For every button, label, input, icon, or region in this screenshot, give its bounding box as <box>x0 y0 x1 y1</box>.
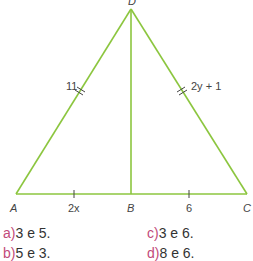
side-dc-label: 2y + 1 <box>191 80 221 92</box>
segment-bc-label: 6 <box>186 202 192 214</box>
side-ad-label: 11 <box>66 80 77 92</box>
vertex-a-label: A <box>9 202 17 214</box>
option-d[interactable]: d)8 e 6. <box>147 245 194 261</box>
vertex-b-label: B <box>127 202 134 214</box>
option-b[interactable]: b)5 e 3. <box>3 245 50 261</box>
triangle-diagram: D A B C 11 2y + 1 2x 6 <box>0 0 253 215</box>
vertex-c-label: C <box>243 202 251 214</box>
vertex-d-label: D <box>128 0 136 7</box>
segment-ab-label: 2x <box>68 202 80 214</box>
option-c[interactable]: c)3 e 6. <box>147 225 194 241</box>
option-a[interactable]: a)3 e 5. <box>3 225 50 241</box>
